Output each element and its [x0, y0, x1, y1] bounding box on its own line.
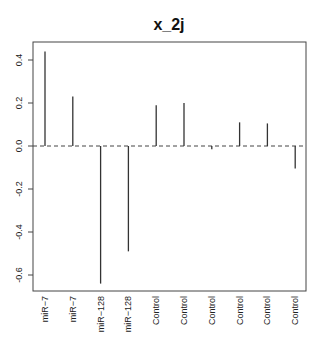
x-category-label: miR−7: [68, 296, 78, 322]
y-tick-label: 0.0: [14, 140, 24, 153]
x-category-label: Control: [262, 296, 272, 325]
x-category-label: miR−128: [123, 296, 133, 332]
y-axis: -0.6-0.4-0.20.00.20.4: [14, 54, 33, 283]
x-axis-labels: miR−7miR−7miR−128miR−128ControlControlCo…: [40, 296, 300, 332]
y-tick-label: 0.4: [14, 54, 24, 67]
x-category-label: miR−128: [96, 296, 106, 332]
x-category-label: Control: [290, 296, 300, 325]
plot-frame: [33, 42, 306, 291]
x-category-label: Control: [151, 296, 161, 325]
x-category-label: Control: [179, 296, 189, 325]
y-tick-label: 0.2: [14, 97, 24, 110]
plot-svg: x_2j -0.6-0.4-0.20.00.20.4 miR−7miR−7miR…: [0, 0, 323, 340]
x-category-label: miR−7: [40, 296, 50, 322]
y-tick-label: -0.6: [14, 267, 24, 283]
y-tick-label: -0.2: [14, 181, 24, 197]
bars: [45, 51, 295, 283]
x-category-label: Control: [235, 296, 245, 325]
chart: x_2j -0.6-0.4-0.20.00.20.4 miR−7miR−7miR…: [0, 0, 323, 340]
y-tick-label: -0.4: [14, 224, 24, 240]
chart-title: x_2j: [153, 16, 184, 33]
x-category-label: Control: [207, 296, 217, 325]
